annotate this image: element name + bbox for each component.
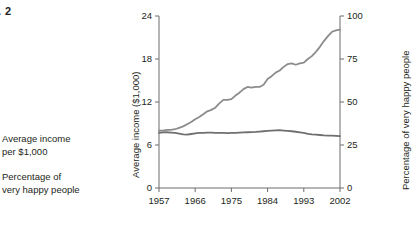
y-axis-right-tick-100: 100 [347, 10, 373, 21]
x-axis-tick-1975: 1975 [214, 195, 248, 206]
legend-item-very-happy-people: Percentage of very happy people [2, 171, 106, 196]
legend-item-average-income: Average income per $1,000 [2, 133, 106, 158]
figure-caption: . 2 [0, 5, 12, 17]
y-axis-left-tick-12: 12 [128, 96, 152, 107]
y-axis-left-tick-24: 24 [128, 10, 152, 21]
x-axis-tick-1993: 1993 [287, 195, 321, 206]
y-axis-left-tick-6: 6 [128, 139, 152, 150]
x-axis-tick-1984: 1984 [251, 195, 285, 206]
y-axis-left-tick-0: 0 [128, 182, 152, 193]
chart-legend: Average income per $1,000 Percentage of … [2, 133, 106, 196]
plot-area: Average income ($1,000) Percentage of ve… [118, 0, 413, 227]
series-line-very-happy-people [159, 130, 340, 136]
x-axis-tick-2002: 2002 [323, 195, 357, 206]
x-axis-tick-1957: 1957 [142, 195, 176, 206]
x-axis-tick-1966: 1966 [178, 195, 212, 206]
y-axis-right-tick-75: 75 [347, 53, 373, 64]
y-axis-left-tick-18: 18 [128, 53, 152, 64]
figure-root: . 2 Average income per $1,000 Percentage… [0, 0, 413, 227]
y-axis-right-tick-25: 25 [347, 139, 373, 150]
series-line-average-income [159, 30, 340, 131]
y-axis-right-tick-50: 50 [347, 96, 373, 107]
y-axis-right-tick-0: 0 [347, 182, 373, 193]
